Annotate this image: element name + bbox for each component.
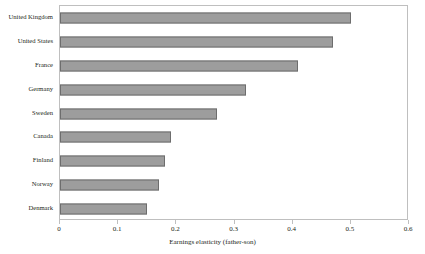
category-label-united-states: United States (0, 37, 53, 45)
bar-france (60, 60, 298, 71)
x-axis-title: Earnings elasticity (father-son) (0, 238, 425, 246)
bar-united-kingdom (60, 12, 351, 23)
x-tick-label: 0.6 (404, 225, 413, 234)
bar-sweden (60, 108, 217, 119)
x-tick-mark (117, 220, 118, 224)
bar-germany (60, 84, 246, 95)
x-tick-label: 0.1 (113, 225, 122, 234)
bars-layer (60, 6, 407, 219)
category-label-sweden: Sweden (0, 109, 53, 117)
x-tick-mark (292, 220, 293, 224)
category-label-france: France (0, 61, 53, 69)
bar-chart-figure: United KingdomUnited StatesFranceGermany… (0, 0, 425, 254)
bar-canada (60, 132, 171, 143)
x-tick-label: 0.3 (229, 225, 238, 234)
x-tick-mark (175, 220, 176, 224)
bar-finland (60, 156, 165, 167)
x-tick-mark (408, 220, 409, 224)
x-tick-mark (234, 220, 235, 224)
category-label-united-kingdom: United Kingdom (0, 13, 53, 21)
x-tick-label: 0.4 (287, 225, 296, 234)
bar-united-states (60, 36, 333, 47)
category-label-finland: Finland (0, 156, 53, 164)
category-label-canada: Canada (0, 132, 53, 140)
chart-title (0, 0, 425, 2)
x-tick-mark (350, 220, 351, 224)
x-tick-label: 0.2 (171, 225, 180, 234)
category-label-norway: Norway (0, 180, 53, 188)
category-label-denmark: Denmark (0, 204, 53, 212)
bar-denmark (60, 204, 147, 215)
category-label-germany: Germany (0, 85, 53, 93)
x-tick-label: 0.5 (345, 225, 354, 234)
category-axis: United KingdomUnited StatesFranceGermany… (0, 5, 56, 220)
x-tick-label: 0 (57, 225, 61, 234)
bar-norway (60, 180, 159, 191)
plot-area (59, 5, 408, 220)
x-tick-mark (59, 220, 60, 224)
